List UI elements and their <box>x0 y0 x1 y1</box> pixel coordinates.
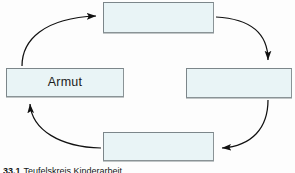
node-bottom-empty[interactable] <box>103 132 214 161</box>
node-armut-label: Armut <box>48 76 82 89</box>
node-top-empty[interactable] <box>103 2 214 33</box>
figure-caption-text: Teufelskreis Kinderarbeit <box>24 166 123 173</box>
edge-top-to-right <box>216 17 268 60</box>
figure-caption: 33.1Teufelskreis Kinderarbeit <box>3 163 293 173</box>
figure-caption-number: 33.1 <box>3 166 21 173</box>
figure-container: Armut 33.1Teufelskreis Kinderarbeit <box>0 0 295 173</box>
edge-bottom-to-armut <box>30 104 101 148</box>
edge-armut-to-top <box>22 16 96 66</box>
node-right-empty[interactable] <box>186 68 292 98</box>
edge-right-to-bottom <box>222 100 268 148</box>
node-armut[interactable]: Armut <box>6 68 124 97</box>
